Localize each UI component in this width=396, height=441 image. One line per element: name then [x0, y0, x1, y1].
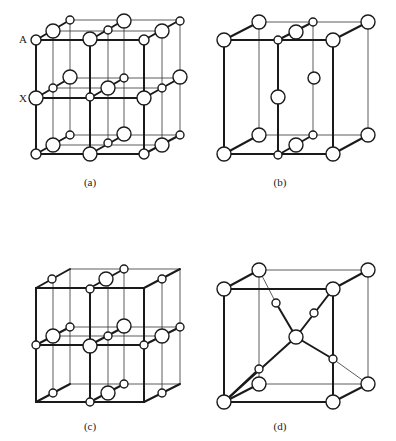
small-atom: [49, 389, 57, 397]
small-atom: [120, 74, 128, 82]
large-atom: [252, 377, 266, 391]
small-atom: [48, 275, 56, 283]
large-atom: [289, 25, 303, 39]
small-atom: [139, 149, 149, 159]
small-atom: [120, 380, 128, 388]
large-atom: [217, 33, 231, 47]
large-atom: [29, 91, 43, 105]
small-atom: [274, 36, 282, 44]
small-atom: [140, 341, 148, 349]
small-atom: [66, 323, 74, 331]
caption-b: (b): [274, 176, 287, 188]
large-atom: [173, 70, 187, 84]
small-atom: [176, 131, 184, 139]
small-atom: [158, 275, 166, 283]
large-atom: [155, 329, 169, 343]
small-atom: [120, 265, 128, 273]
large-atom: [155, 138, 169, 152]
small-atom: [272, 299, 280, 307]
large-atom: [46, 24, 60, 38]
panel-a-lattice: [29, 14, 187, 161]
large-atom: [155, 24, 169, 38]
large-atom: [326, 395, 340, 409]
large-atom: [101, 81, 115, 95]
caption-d: (d): [274, 420, 287, 432]
panel-c-lattice: [32, 265, 184, 406]
large-atom: [117, 127, 131, 141]
large-atom: [361, 263, 375, 277]
large-atom: [252, 128, 266, 142]
large-atom: [83, 147, 97, 161]
crystal-structure-figure: [0, 0, 396, 441]
small-atom: [176, 17, 184, 25]
small-atom: [104, 332, 112, 340]
panel-b-lattice: [217, 15, 375, 161]
caption-a: (a): [84, 176, 96, 188]
large-atom: [252, 263, 266, 277]
small-atom: [31, 35, 41, 45]
small-atom: [139, 35, 149, 45]
small-atom: [66, 131, 74, 139]
large-atom: [137, 91, 151, 105]
panel-d-lattice: [217, 263, 375, 409]
large-atom: [252, 15, 266, 29]
large-atom: [101, 386, 115, 400]
side-label-a: A: [19, 33, 27, 45]
large-atom: [308, 72, 320, 84]
large-atom: [271, 90, 285, 104]
large-atom: [326, 33, 340, 47]
large-atom: [361, 128, 375, 142]
small-atom: [309, 18, 317, 26]
large-atom: [326, 147, 340, 161]
large-atom: [217, 282, 231, 296]
small-atom: [158, 389, 166, 397]
small-atom: [49, 84, 57, 92]
large-atom: [63, 70, 77, 84]
small-atom: [310, 309, 318, 317]
large-atom: [83, 339, 97, 353]
large-atom: [117, 319, 131, 333]
large-atom: [217, 395, 231, 409]
small-atom: [31, 149, 41, 159]
small-atom: [66, 16, 74, 24]
small-atom: [176, 323, 184, 331]
large-atom: [83, 32, 97, 46]
large-atom: [326, 282, 340, 296]
large-atom: [361, 377, 375, 391]
small-atom: [86, 285, 94, 293]
large-atom: [289, 138, 303, 152]
caption-c: (c): [84, 420, 96, 432]
small-atom: [104, 139, 112, 147]
small-atom: [329, 355, 337, 363]
small-atom: [255, 365, 263, 373]
small-atom: [32, 341, 40, 349]
small-atom: [86, 93, 94, 101]
large-atom: [99, 272, 113, 286]
small-atom: [309, 131, 317, 139]
small-atom: [86, 398, 94, 406]
small-atom: [158, 84, 166, 92]
large-atom: [117, 14, 131, 28]
large-atom: [46, 138, 60, 152]
small-atom: [104, 26, 112, 34]
large-atom: [217, 147, 231, 161]
side-label-x: X: [19, 92, 27, 104]
small-atom: [274, 151, 282, 159]
large-atom: [46, 329, 60, 343]
large-atom: [361, 15, 375, 29]
large-atom: [289, 330, 303, 344]
